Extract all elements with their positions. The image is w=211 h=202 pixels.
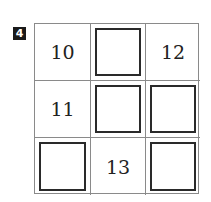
answer-box[interactable]	[95, 28, 141, 76]
grid-cell	[146, 138, 200, 195]
cell-number: 11	[50, 98, 74, 120]
grid-cell	[91, 24, 146, 81]
answer-box[interactable]	[39, 142, 86, 191]
grid-cell	[146, 81, 200, 138]
grid-cell: 12	[146, 24, 200, 81]
cell-number: 13	[106, 156, 130, 178]
number-grid: 10 12 11 13	[34, 23, 199, 194]
answer-box[interactable]	[150, 85, 196, 133]
grid-cell	[91, 81, 146, 138]
grid-cell: 13	[91, 138, 146, 195]
cell-number: 10	[50, 41, 74, 63]
cell-number: 12	[161, 41, 185, 63]
grid-cell	[35, 138, 91, 195]
grid-cell: 10	[35, 24, 91, 81]
answer-box[interactable]	[150, 142, 196, 191]
grid-cell: 11	[35, 81, 91, 138]
problem-number-badge: 4	[13, 27, 26, 40]
answer-box[interactable]	[95, 85, 141, 133]
